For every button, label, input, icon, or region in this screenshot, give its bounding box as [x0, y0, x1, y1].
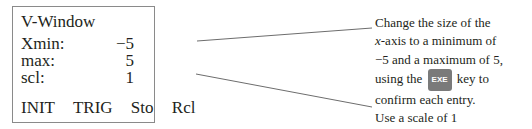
- annotation-line-5: confirm each entry.: [375, 91, 532, 109]
- exe-key-icon: EXE: [428, 69, 452, 91]
- menu-rcl[interactable]: Rcl: [172, 98, 196, 117]
- annotation-text: Change the size of the x-axis to a minim…: [375, 14, 532, 128]
- annotation-line-2: x-axis to a minimum of: [375, 32, 532, 50]
- annotation-line-4: using the EXE key to: [375, 69, 532, 91]
- xscl-label: scl:: [21, 69, 45, 87]
- annotation-line-1: Change the size of the: [375, 14, 532, 32]
- menu-trig[interactable]: TRIG: [73, 98, 113, 117]
- annotation-line-3: −5 and a maximum of 5,: [375, 51, 532, 69]
- function-menu: INIT TRIG Sto Rcl: [21, 99, 209, 117]
- menu-init[interactable]: INIT: [21, 98, 55, 117]
- annotation-line-2-rest: -axis to a minimum of: [381, 33, 497, 48]
- annotation-line-4-post: key to: [457, 71, 489, 86]
- xscl-value: 1: [126, 69, 135, 87]
- calculator-screen: V-Window Xmin: −5 max: 5 scl: 1 INIT TRI…: [12, 6, 155, 123]
- annotation-line-4-pre: using the: [375, 71, 422, 86]
- annotation-line-6: Use a scale of 1: [375, 109, 532, 127]
- screen-title: V-Window: [21, 13, 95, 31]
- menu-sto[interactable]: Sto: [131, 98, 154, 117]
